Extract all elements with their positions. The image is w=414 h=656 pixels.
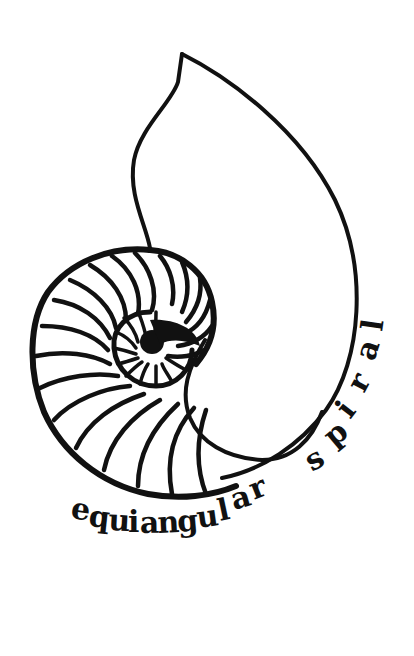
nautilus-spiral bbox=[32, 249, 236, 496]
caption-letter: s bbox=[298, 439, 330, 478]
caption-letter: a bbox=[347, 335, 386, 364]
caption-letter: i bbox=[128, 504, 139, 539]
illustration-canvas: e q u i a n g u l a r s p i r a l bbox=[0, 0, 414, 656]
caption-letter: l bbox=[354, 317, 390, 333]
caption-letter: r bbox=[339, 366, 378, 397]
nautilus-illustration: e q u i a n g u l a r s p i r a l bbox=[0, 0, 414, 656]
